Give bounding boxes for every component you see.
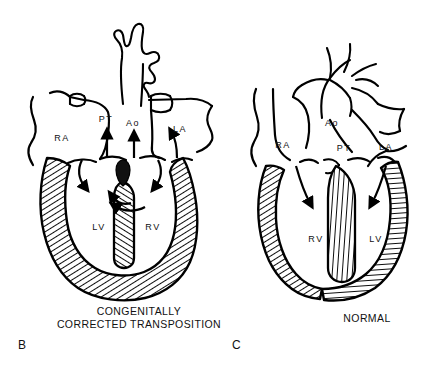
- label-pt-panel-c: PT: [337, 143, 352, 153]
- label-ao-panel-c: Ao: [325, 118, 339, 128]
- label-lv-panel-c: LV: [369, 234, 383, 244]
- caption-line1-panel-b: CONGENITALLY: [97, 305, 181, 317]
- cardiac-anatomy-figure: RA PT Ao LA LV RV CONGENITALLY CORRECTED…: [0, 0, 441, 365]
- label-rv-panel-c: RV: [308, 234, 324, 244]
- caption-line1-panel-c: NORMAL: [343, 312, 390, 324]
- label-pt-panel-b: PT: [99, 114, 114, 124]
- label-ra-panel-c: RA: [275, 140, 291, 150]
- label-la-panel-b: LA: [173, 124, 187, 134]
- panel-letter-b: B: [18, 338, 26, 352]
- label-rv-panel-b: RV: [145, 222, 161, 232]
- label-ra-panel-b: RA: [54, 133, 70, 143]
- label-lv-panel-b: LV: [92, 222, 106, 232]
- caption-line2-panel-b: CORRECTED TRANSPOSITION: [57, 318, 221, 330]
- label-ao-panel-b: Ao: [126, 118, 140, 128]
- panel-letter-c: C: [232, 338, 241, 352]
- label-la-panel-c: LA: [379, 142, 393, 152]
